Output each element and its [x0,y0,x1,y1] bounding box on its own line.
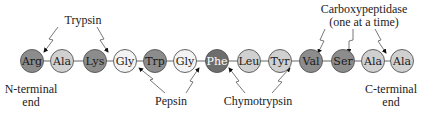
residue-ala: Ala [391,50,414,73]
residue-label: Gly [116,55,135,68]
chymotrypsin-label: Chymotrypsin [218,95,298,108]
carboxypeptidase-arrow-ala-ala [375,29,386,53]
residue-leu: Leu [238,50,261,73]
trypsin-arrow-lys-gly [97,27,108,52]
residue-ser: Ser [332,50,355,73]
carboxypeptidase-arrow-ser-ala [349,29,353,53]
residue-lys: Lys [84,50,107,73]
residue-label: Phe [207,55,228,68]
c-terminal-label-line2: end [362,96,420,109]
residue-gly: Gly [174,50,197,73]
trypsin-arrow-arg-ala [44,27,58,52]
residue-label: Ala [363,55,382,68]
peptide-cleavage-diagram: ArgAlaLysGlyTrpGlyPheLeuTyrValSerAlaAla … [0,0,428,115]
c-terminal-label: C-terminal end [362,83,420,109]
residue-ala: Ala [51,50,74,73]
residue-trp: Trp [144,50,167,73]
residue-label: Trp [145,55,165,68]
residue-label: Gly [176,55,195,68]
residue-phe: Phe [206,50,229,73]
n-terminal-label: N-terminal end [2,83,60,109]
residue-label: Lys [86,55,105,68]
residue-label: Ala [392,55,411,68]
residue-tyr: Tyr [269,50,292,73]
carboxypeptidase-label: Carboxypeptidase (one at a time) [300,3,428,29]
residue-label: Leu [239,55,260,68]
trypsin-label: Trypsin [58,14,108,27]
residue-gly: Gly [114,50,137,73]
residue-ala: Ala [362,50,385,73]
residue-label: Arg [21,55,42,68]
residue-label: Val [301,55,319,68]
carboxypeptidase-arrow-val-ser [318,29,325,53]
n-terminal-label-line2: end [2,96,60,109]
residue-val: Val [300,50,323,73]
residue-arg: Arg [21,50,44,73]
residue-label: Ser [333,55,353,68]
pepsin-label: Pepsin [146,95,196,108]
residue-label: Ala [52,55,71,68]
residue-label: Tyr [271,55,291,68]
chymotrypsin-arrow-phe-leu [229,68,245,93]
carboxypeptidase-label-line2: (one at a time) [300,16,428,29]
